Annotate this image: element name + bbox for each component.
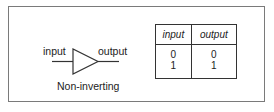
header-output: output — [191, 25, 236, 45]
truth-table-values: 0 1 0 1 — [156, 45, 237, 79]
input-label: input — [43, 45, 66, 57]
input-value: 0 — [156, 49, 191, 60]
input-column-values: 0 1 — [156, 45, 192, 79]
header-input: input — [156, 25, 192, 45]
truth-table: input output 0 1 0 1 — [155, 24, 237, 79]
output-column-values: 0 1 — [191, 45, 236, 79]
buffer-triangle-icon — [73, 49, 98, 74]
output-label: output — [98, 45, 127, 57]
output-value: 0 — [192, 49, 236, 60]
gate-caption: Non-inverting — [57, 80, 119, 92]
input-value: 1 — [156, 60, 191, 71]
truth-table-header-row: input output — [156, 25, 237, 45]
output-value: 1 — [192, 60, 236, 71]
